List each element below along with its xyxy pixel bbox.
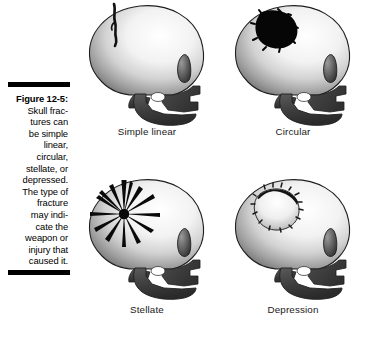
caption-line: circular, — [4, 151, 68, 163]
caption-line: linear, — [4, 139, 68, 151]
skull-illustration-circular — [218, 0, 368, 134]
caption-rule-top — [8, 82, 70, 87]
figure-panel-circular: Circular — [218, 0, 368, 158]
figure-panel-stellate: Stellate — [72, 158, 222, 318]
panel-label-stellate: Stellate — [72, 304, 222, 315]
skull-illustration-stellate — [72, 172, 222, 308]
caption-line: be simple — [4, 128, 68, 140]
caption-line: The type of — [4, 186, 68, 198]
panel-label-depression: Depression — [218, 304, 368, 315]
caption-line: stellate, or — [4, 163, 68, 175]
caption-line: fracture — [4, 197, 68, 209]
caption-rule-bottom — [8, 270, 70, 275]
caption-line: Skull frac- — [4, 105, 68, 117]
skull-eye-socket — [178, 55, 191, 83]
caption-line: cate the — [4, 221, 68, 233]
skull-eye-socket — [324, 55, 337, 83]
skull-eye-socket — [324, 229, 337, 257]
figure-page: Figure 12-5: Skull frac- tures can be si… — [0, 0, 368, 343]
caption-line: caused it. — [4, 255, 68, 267]
panel-label-circular: Circular — [218, 126, 368, 137]
skull-eye-socket — [178, 229, 191, 257]
figure-caption-block: Figure 12-5: Skull frac- tures can be si… — [0, 82, 72, 314]
figure-panel-depression: Depression — [218, 158, 368, 318]
caption-line: injury that — [4, 244, 68, 256]
caption-line: tures can — [4, 116, 68, 128]
figure-number-label: Figure 12-5: — [4, 93, 68, 105]
panel-label-simple-linear: Simple linear — [72, 126, 222, 137]
caption-text: Figure 12-5: Skull frac- tures can be si… — [4, 93, 68, 267]
caption-line: weapon or — [4, 232, 68, 244]
skull-illustration-simple-linear — [72, 0, 222, 134]
caption-line: depressed. — [4, 174, 68, 186]
skull-illustration-depression — [218, 172, 368, 308]
caption-line: may indi- — [4, 209, 68, 221]
figure-panel-simple-linear: Simple linear — [72, 0, 222, 158]
